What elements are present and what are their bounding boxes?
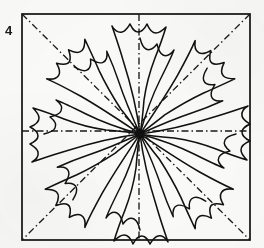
- figure-drawing: [0, 0, 264, 248]
- petal-n: [112, 24, 174, 134]
- petal-e: [140, 106, 250, 168]
- figure-number-label: 4: [5, 24, 12, 37]
- figure-container: 4: [0, 0, 264, 248]
- petal-s: [106, 134, 168, 244]
- center-convergence-point: [137, 131, 143, 136]
